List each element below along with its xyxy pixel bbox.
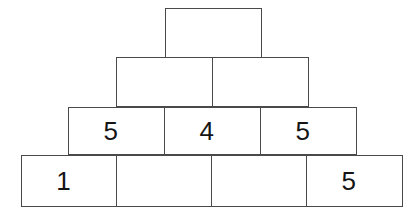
pyramid-cell-r3c1[interactable]: 5 xyxy=(68,107,165,155)
pyramid-cell-r1c1[interactable] xyxy=(165,8,262,58)
pyramid-cell-r2c2[interactable] xyxy=(212,57,309,107)
pyramid-cell-r4c4[interactable]: 5 xyxy=(306,155,403,207)
pyramid-cell-value: 1 xyxy=(22,168,105,194)
pyramid-cell-r2c1[interactable] xyxy=(116,57,213,107)
pyramid-cell-value: 5 xyxy=(307,168,391,194)
pyramid-row-4: 1 5 xyxy=(21,155,403,207)
pyramid-cell-value: 4 xyxy=(165,118,249,144)
pyramid-cell-r3c2[interactable]: 4 xyxy=(164,107,261,155)
number-pyramid-figure: 5 4 5 1 5 xyxy=(0,0,414,221)
pyramid-row-3: 5 4 5 xyxy=(68,107,357,155)
pyramid-cell-r4c1[interactable]: 1 xyxy=(21,155,117,207)
pyramid-cell-r4c2[interactable] xyxy=(116,155,212,207)
pyramid-cell-r4c3[interactable] xyxy=(211,155,307,207)
pyramid-cell-value: 5 xyxy=(69,118,153,144)
pyramid-cell-value: 5 xyxy=(261,118,345,144)
pyramid-cell-r3c3[interactable]: 5 xyxy=(260,107,357,155)
pyramid-row-1 xyxy=(165,8,262,58)
pyramid-row-2 xyxy=(116,57,309,107)
